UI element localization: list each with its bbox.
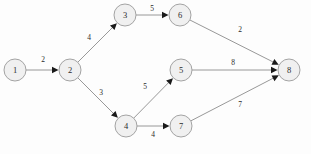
arrowheads-layer <box>52 12 279 129</box>
node-label-3: 3 <box>123 10 127 20</box>
edge-2-to-4 <box>78 78 113 113</box>
edge-weight-2-3: 4 <box>87 33 91 42</box>
edge-2-to-3 <box>78 28 112 62</box>
arrowhead-5-to-8 <box>271 67 278 73</box>
edge-weight-6-8: 2 <box>238 25 242 34</box>
node-label-6: 6 <box>178 10 182 20</box>
node-8[interactable]: 8 <box>278 59 300 81</box>
graph-diagram: 243554287 12345678 <box>0 0 311 154</box>
arrowhead-1-to-2 <box>52 67 59 73</box>
node-label-8: 8 <box>287 65 291 75</box>
arrowhead-3-to-6 <box>162 12 169 18</box>
node-label-2: 2 <box>68 65 72 75</box>
node-7[interactable]: 7 <box>170 115 192 137</box>
node-label-1: 1 <box>13 65 17 75</box>
edge-weight-1-2: 2 <box>41 55 45 64</box>
edge-weight-4-7: 4 <box>151 130 155 139</box>
node-2[interactable]: 2 <box>59 59 81 81</box>
edge-weight-2-4: 3 <box>99 88 103 97</box>
edge-7-to-8 <box>191 78 273 121</box>
node-4[interactable]: 4 <box>115 115 137 137</box>
edge-weight-5-8: 8 <box>231 58 235 67</box>
edge-6-to-8 <box>190 20 273 62</box>
edge-4-to-5 <box>134 83 169 118</box>
edge-weight-7-8: 7 <box>238 100 242 109</box>
node-label-5: 5 <box>179 65 183 75</box>
node-5[interactable]: 5 <box>170 59 192 81</box>
edge-weight-4-5: 5 <box>143 82 147 91</box>
edge-weight-3-6: 5 <box>150 4 154 13</box>
arrowhead-4-to-7 <box>163 123 170 129</box>
node-1[interactable]: 1 <box>4 59 26 81</box>
node-6[interactable]: 6 <box>169 4 191 26</box>
node-label-7: 7 <box>179 121 183 131</box>
graph-canvas: 243554287 12345678 <box>0 0 311 154</box>
nodes-layer: 12345678 <box>4 4 300 137</box>
node-3[interactable]: 3 <box>114 4 136 26</box>
